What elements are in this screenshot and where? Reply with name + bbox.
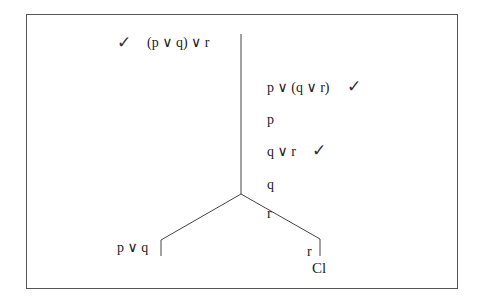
check-icon: ✓ xyxy=(312,142,326,159)
right-branch-formula: r xyxy=(307,245,312,259)
check-icon: ✓ xyxy=(347,78,361,95)
trunk-formula-1: p ∨ (q ∨ r) xyxy=(267,81,329,95)
trunk-formula-3: q ∨ r xyxy=(267,145,296,159)
left-branch-formula: p ∨ q xyxy=(117,241,148,255)
left-branch-line xyxy=(161,194,241,240)
premise-formula: (p ∨ q) ∨ r xyxy=(147,36,209,50)
trunk-formula-2: p xyxy=(267,113,274,127)
tree-lines xyxy=(0,0,480,307)
trunk-formula-5: r xyxy=(267,207,272,221)
right-branch-line xyxy=(241,194,320,239)
trunk-formula-4: q xyxy=(267,178,274,192)
check-icon: ✓ xyxy=(117,34,131,51)
closed-branch-label: Cl xyxy=(312,261,326,275)
